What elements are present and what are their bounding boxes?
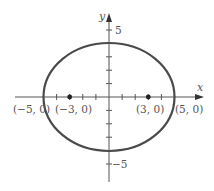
y-tick-label-neg5: −5 <box>112 158 127 170</box>
y-axis-arrow-icon <box>106 13 112 22</box>
x-axis-label: x <box>197 81 204 94</box>
point-label-neg5-0: (−5, 0) <box>13 103 50 115</box>
focus-right-marker <box>146 95 151 100</box>
point-label-3-0: (3, 0) <box>136 103 164 115</box>
x-axis-arrow-icon <box>195 94 204 100</box>
ellipse-diagram: y x 5 −5 (−5, 0) (−3, 0) (3, 0) (5, 0) <box>0 0 214 191</box>
point-label-5-0: (5, 0) <box>175 103 203 115</box>
y-tick-label-5: 5 <box>115 24 122 36</box>
point-label-neg3-0: (−3, 0) <box>55 103 92 115</box>
focus-left-marker <box>67 95 72 100</box>
y-axis-label: y <box>98 10 106 23</box>
